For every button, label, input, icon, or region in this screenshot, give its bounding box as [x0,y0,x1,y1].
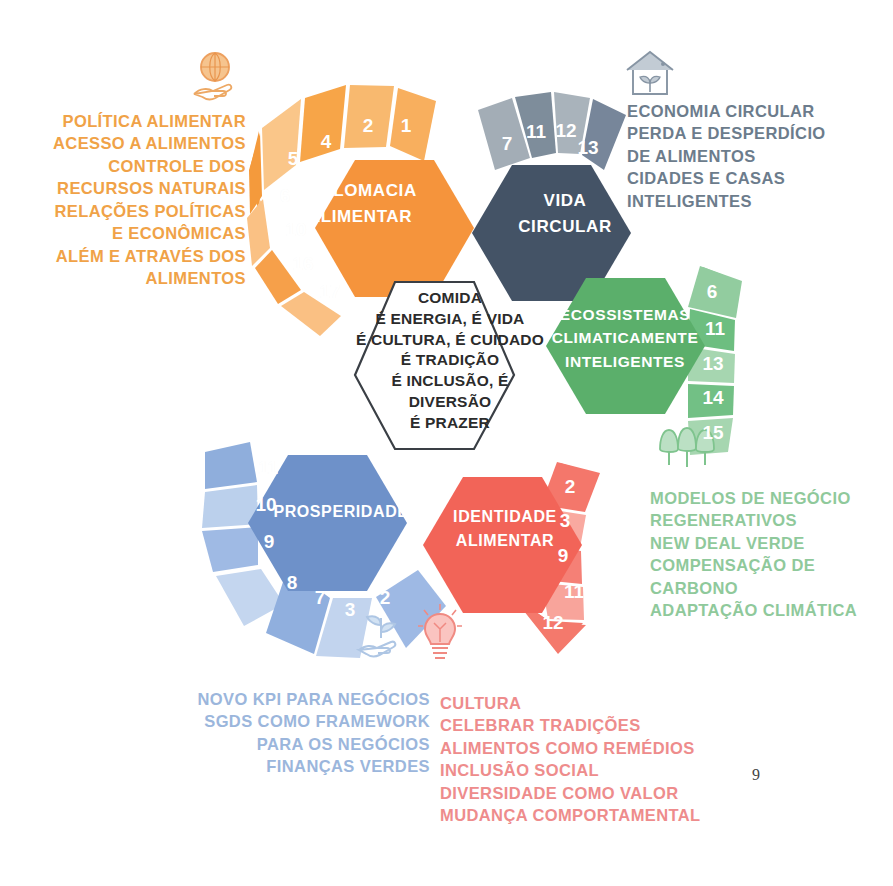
three-trees-icon [660,428,714,467]
petal-b9[interactable] [202,527,258,572]
petal-group-vida-circular [478,92,626,170]
petal-2[interactable] [344,85,394,148]
infographic-canvas: DIPLOMACIA ALIMENTAR VIDA CIRCULAR ECOSS… [0,0,893,886]
petal-g14[interactable] [688,384,734,418]
petal-5[interactable] [262,99,301,190]
petal-17[interactable] [281,292,341,336]
petal-b11[interactable] [205,442,257,489]
text-block-prosperity-kpis: NOVO KPI PARA NEGÓCIOS SGDS COMO FRAMEWO… [150,688,430,778]
house-with-plant-icon [627,52,673,94]
text-block-food-policy: POLÍTICA ALIMENTAR ACESSO A ALIMENTOS CO… [48,110,246,290]
globe-in-hand-icon [194,53,231,99]
text-block-regenerative-business: MODELOS DE NEGÓCIO REGENERATIVOS NEW DEA… [650,487,880,622]
petal-13[interactable] [582,99,626,170]
hexagon-group-prosperidade[interactable] [202,442,446,658]
petal-g6b [688,266,742,318]
text-block-circular-economy: ECONOMIA CIRCULAR PERDA E DESPERDÍCIO DE… [627,100,877,212]
petal-1[interactable] [390,88,436,161]
petal-4[interactable] [300,85,346,162]
page-number: 9 [752,766,760,784]
hexagon-group-vida-circular[interactable] [472,92,631,301]
hexagon-core-center[interactable] [355,282,514,449]
hexagon-core-diplomacia[interactable] [315,160,474,297]
petal-16[interactable] [255,250,301,304]
text-block-food-identity: CULTURA CELEBRAR TRADIÇÕES ALIMENTOS COM… [440,692,730,827]
hexagon-core-prosperidade[interactable] [248,455,407,591]
